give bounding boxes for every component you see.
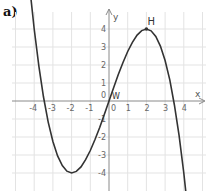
y-tick-label: -2	[98, 133, 106, 142]
x-tick-label: 2	[144, 104, 149, 113]
point-h-marker	[145, 27, 149, 31]
y-tick-label: 2	[101, 61, 106, 70]
y-tick-label: 4	[101, 25, 106, 34]
y-tick-label: -4	[98, 169, 106, 178]
function-graph: xy -4-3-2-101234-4-3-2-112340 HW	[0, 0, 206, 191]
y-tick-label: 1	[101, 79, 106, 88]
point-h-label: H	[147, 16, 155, 27]
x-tick-label: -3	[48, 104, 56, 113]
point-w-label: W	[112, 92, 120, 101]
x-tick-label: -1	[85, 104, 93, 113]
y-tick-label: -3	[98, 151, 106, 160]
y-axis-label: y	[113, 12, 119, 22]
y-tick-label: 3	[101, 43, 106, 52]
x-tick-label: -2	[67, 104, 75, 113]
x-tick-label: 4	[182, 104, 187, 113]
x-tick-label: 0	[111, 104, 116, 113]
axes: xy	[12, 9, 205, 191]
x-tick-label: 1	[126, 104, 131, 113]
x-axis-label: x	[195, 89, 201, 99]
origin-label: 0	[101, 91, 106, 100]
x-tick-label: 3	[163, 104, 168, 113]
x-tick-label: -4	[29, 104, 37, 113]
